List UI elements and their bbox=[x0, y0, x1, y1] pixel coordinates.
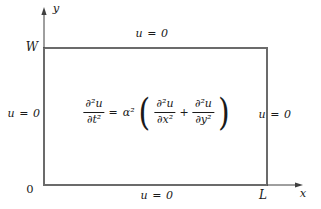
term2-numerator: ∂²u bbox=[193, 98, 214, 113]
boundary-condition-bottom: u = 0 bbox=[141, 190, 174, 201]
open-paren: ( bbox=[138, 93, 152, 131]
alpha-coefficient: α² bbox=[122, 106, 135, 119]
domain-height-label: W bbox=[26, 41, 38, 53]
term1-denominator: ∂x² bbox=[157, 113, 173, 127]
close-paren: ) bbox=[217, 93, 231, 131]
figure-canvas: y x 0 W L u = 0 u = 0 u = 0 u = 0 ∂²u ∂t… bbox=[0, 0, 321, 209]
wave-equation: ∂²u ∂t² = α² ( ∂²u ∂x² + ∂²u ∂y² ) bbox=[83, 97, 230, 127]
term2-denominator: ∂y² bbox=[195, 113, 211, 127]
term2-fraction: ∂²u ∂y² bbox=[193, 98, 214, 126]
y-axis-arrowhead-icon bbox=[41, 7, 46, 15]
domain-width-label: L bbox=[259, 189, 267, 201]
lhs-fraction: ∂²u ∂t² bbox=[83, 98, 104, 126]
boundary-condition-top: u = 0 bbox=[136, 28, 169, 39]
boundary-condition-left: u = 0 bbox=[8, 108, 41, 119]
y-axis-label: y bbox=[53, 3, 60, 15]
origin-label: 0 bbox=[26, 184, 33, 196]
term1-numerator: ∂²u bbox=[154, 98, 175, 113]
boundary-condition-right: u = 0 bbox=[259, 109, 292, 120]
equals-sign: = bbox=[108, 106, 119, 119]
term1-fraction: ∂²u ∂x² bbox=[154, 98, 175, 126]
x-axis-label: x bbox=[300, 188, 307, 200]
plus-sign: + bbox=[179, 106, 190, 119]
lhs-numerator: ∂²u bbox=[83, 98, 104, 113]
lhs-denominator: ∂t² bbox=[87, 113, 102, 127]
